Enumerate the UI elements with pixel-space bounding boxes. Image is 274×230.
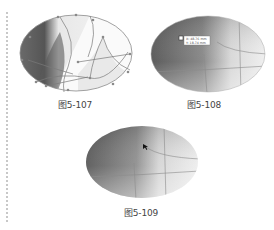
caption-fig-5-107: 图5-107 xyxy=(40,98,110,111)
gradient-mesh-ellipse-icon: X: 48.76 mm Y: 18.74 mm xyxy=(149,14,267,94)
figure-5-108: X: 48.76 mm Y: 18.74 mm xyxy=(149,14,267,94)
figure-5-109 xyxy=(84,125,200,201)
page-margin-dotted-line xyxy=(6,12,8,222)
svg-text:Y: 18.74 mm: Y: 18.74 mm xyxy=(186,41,206,45)
gradient-mesh-ellipse-icon xyxy=(84,125,200,201)
gradient-mesh-ellipse-icon xyxy=(18,12,136,94)
caption-fig-5-109: 图5-109 xyxy=(106,206,176,219)
figure-5-107 xyxy=(18,12,136,94)
caption-fig-5-108: 图5-108 xyxy=(169,98,239,111)
